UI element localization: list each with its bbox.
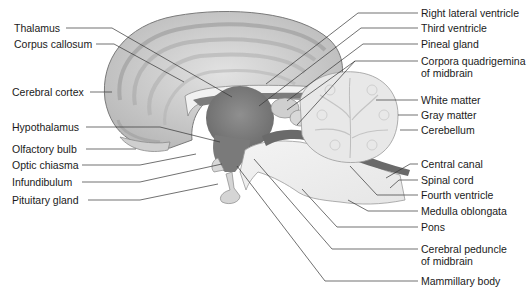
pituitary-shape — [220, 172, 240, 204]
label-olfactory-bulb: Olfactory bulb — [12, 143, 77, 155]
label-medulla-oblongata: Medulla oblongata — [421, 205, 507, 217]
label-third-ventricle: Third ventricle — [421, 22, 487, 34]
label-fourth-ventricle: Fourth ventricle — [421, 189, 493, 201]
cerebellum-shape — [300, 72, 398, 163]
label-cerebral-peduncle: Cerebral peduncle — [421, 243, 507, 255]
brain-diagram: Thalamus Corpus callosum Cerebral cortex… — [0, 0, 528, 297]
label-mammillary-body: Mammillary body — [421, 275, 500, 287]
label-corpora-quadrigemina: Corpora quadrigemina — [421, 55, 525, 67]
label-hypothalamus: Hypothalamus — [12, 121, 79, 133]
label-infundibulum: Infundibulum — [12, 176, 72, 188]
label-pituitary-gland: Pituitary gland — [12, 194, 79, 206]
label-pons: Pons — [421, 221, 445, 233]
label-white-matter: White matter — [421, 94, 481, 106]
label-optic-chiasma: Optic chiasma — [12, 159, 79, 171]
label-cerebral-cortex: Cerebral cortex — [12, 86, 84, 98]
label-thalamus: Thalamus — [14, 22, 60, 34]
label-pineal-gland: Pineal gland — [421, 38, 479, 50]
label-corpus-callosum: Corpus callosum — [14, 38, 92, 50]
label-cerebral-peduncle-line2: of midbrain — [421, 255, 473, 267]
label-corpora-quadrigemina-line2: of midbrain — [421, 67, 473, 79]
label-right-lateral-ventricle: Right lateral ventricle — [421, 7, 519, 19]
label-gray-matter: Gray matter — [421, 109, 476, 121]
label-spinal-cord: Spinal cord — [421, 174, 474, 186]
label-cerebellum: Cerebellum — [421, 124, 475, 136]
label-central-canal: Central canal — [421, 158, 483, 170]
